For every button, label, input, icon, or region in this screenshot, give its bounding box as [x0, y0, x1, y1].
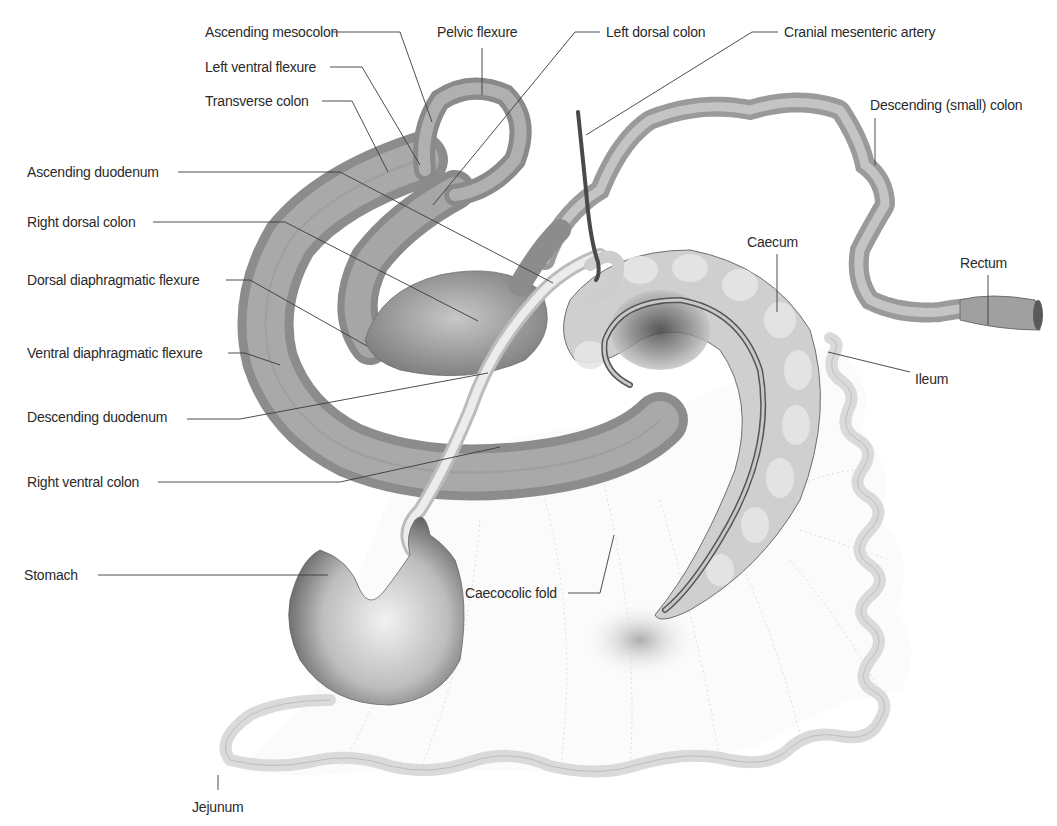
label-rectum: Rectum: [960, 255, 1007, 271]
label-descending-duodenum: Descending duodenum: [27, 409, 167, 425]
label-pelvic-flexure: Pelvic flexure: [437, 24, 517, 40]
label-dorsal-diaphragmatic-flexure: Dorsal diaphragmatic flexure: [27, 272, 200, 288]
leader-ascending-mesocolon: [333, 32, 432, 122]
label-right-ventral-colon: Right ventral colon: [27, 474, 139, 490]
label-ileum: Ileum: [915, 371, 948, 387]
label-stomach: Stomach: [24, 567, 78, 583]
label-right-dorsal-colon: Right dorsal colon: [27, 214, 135, 230]
label-caecocolic-fold: Caecocolic fold: [465, 585, 557, 601]
label-ascending-mesocolon: Ascending mesocolon: [205, 24, 338, 40]
label-left-dorsal-colon: Left dorsal colon: [606, 24, 705, 40]
rectum-organ: [960, 296, 1040, 330]
label-jejunum: Jejunum: [192, 799, 244, 815]
label-ventral-diaphragmatic-flexure: Ventral diaphragmatic flexure: [27, 345, 203, 361]
label-ascending-duodenum: Ascending duodenum: [27, 164, 159, 180]
label-transverse-colon: Transverse colon: [205, 93, 309, 109]
label-caecum: Caecum: [747, 234, 798, 250]
label-descending-small-colon: Descending (small) colon: [870, 97, 1022, 113]
label-cranial-mesenteric-artery: Cranial mesenteric artery: [784, 24, 935, 40]
label-left-ventral-flexure: Left ventral flexure: [205, 59, 316, 75]
